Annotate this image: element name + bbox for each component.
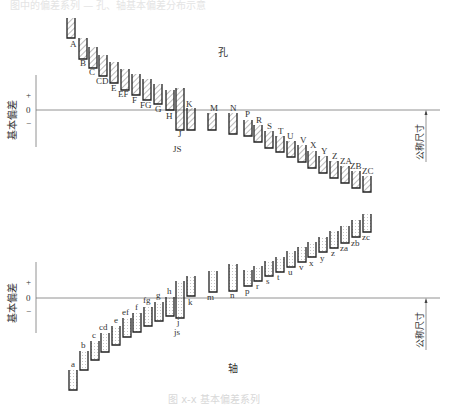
- hole-bars: ABCCDEEFFFGGHJKMNPRSTUVXYZZAZBZCJS: [67, 18, 374, 192]
- bar-label: A: [70, 39, 77, 49]
- bar-label: F: [132, 95, 137, 105]
- hole-zero-label: 0: [26, 105, 31, 115]
- deviation-bar: FG: [140, 79, 152, 110]
- deviation-bar: t: [276, 257, 284, 282]
- deviation-bar: ef: [122, 307, 131, 337]
- bar-label: p: [245, 286, 250, 296]
- deviation-bar: J: [176, 88, 184, 139]
- deviation-bar: Y: [319, 146, 328, 173]
- hole-minus-label: −: [26, 118, 31, 128]
- deviation-bar: j: [176, 281, 184, 327]
- bar-label: r: [256, 281, 259, 291]
- deviation-bar: k: [187, 276, 195, 307]
- bar-label: j: [176, 317, 180, 327]
- bar-label: EF: [118, 89, 129, 99]
- deviation-bar: T: [276, 126, 284, 152]
- hole-size-label: 公称尺寸: [414, 124, 425, 160]
- deviation-bar: g: [155, 290, 163, 321]
- hole-title: 孔: [218, 47, 228, 58]
- deviation-bar: n: [229, 264, 237, 300]
- bar-label: h: [167, 286, 172, 296]
- bar-label: m: [207, 292, 214, 302]
- deviation-bar: c: [91, 330, 99, 360]
- bar-label: U: [287, 131, 294, 141]
- bar-label: e: [114, 315, 118, 325]
- bar-label: u: [288, 267, 293, 277]
- deviation-bar: cd: [99, 322, 109, 352]
- bar-label: G: [155, 104, 162, 114]
- bar-label: b: [81, 340, 86, 350]
- deviation-bar: x: [308, 242, 316, 268]
- bar-label: C: [89, 67, 95, 77]
- deviation-bar: m: [207, 271, 217, 302]
- bar-label: n: [230, 290, 235, 300]
- bar-label: J: [178, 129, 182, 139]
- deviation-bar: P: [244, 109, 252, 136]
- deviation-bar: V: [298, 135, 307, 162]
- bar-label: f: [135, 302, 138, 312]
- bar-label: B: [80, 58, 86, 68]
- deviation-bar: ZC: [362, 166, 374, 192]
- shaft-axes: [36, 262, 440, 350]
- deviation-bar: p: [244, 270, 252, 296]
- js-label: js: [173, 327, 181, 337]
- shaft-zero-label: 0: [26, 293, 31, 303]
- deviation-bar: F: [132, 74, 140, 105]
- js-label: JS: [173, 144, 182, 154]
- hole-axis-label: 基本偏差: [6, 100, 18, 140]
- deviation-bar: s: [265, 261, 273, 286]
- bar-label: Y: [321, 146, 328, 156]
- bar-label: X: [310, 140, 317, 150]
- deviation-bar: M: [208, 103, 218, 130]
- deviation-bar: EF: [118, 69, 129, 99]
- bar-label: ef: [122, 307, 129, 317]
- bar-label: x: [309, 258, 314, 268]
- bar-label: t: [277, 272, 280, 282]
- bar-label: y: [320, 253, 325, 263]
- bar-label: K: [186, 99, 193, 109]
- bar-label: T: [278, 126, 284, 136]
- shaft-plus-label: +: [26, 277, 31, 287]
- deviation-bar: Z: [330, 151, 338, 178]
- bar-label: g: [156, 290, 161, 300]
- deviation-bar: h: [166, 286, 174, 316]
- hole-axes: [36, 75, 440, 162]
- deviation-bar: H: [166, 90, 174, 121]
- bar-label: H: [166, 111, 173, 121]
- bar-label: za: [340, 243, 348, 253]
- bar-label: FG: [140, 100, 152, 110]
- deviation-bar: a: [69, 359, 77, 390]
- deviation-bar: v: [298, 247, 306, 272]
- bar-label: z: [331, 248, 335, 258]
- deviation-bar: U: [287, 131, 295, 157]
- shaft-axis-label: 基本偏差: [6, 283, 18, 323]
- deviation-bar: zc: [362, 214, 371, 242]
- bar-label: a: [71, 359, 75, 369]
- deviation-bar: R: [254, 115, 262, 142]
- deviation-bar: zb: [351, 220, 360, 248]
- bar-label: CD: [96, 76, 109, 86]
- deviation-bar: X: [308, 140, 317, 168]
- deviation-bar: fg: [143, 295, 152, 326]
- deviation-bar: za: [340, 226, 349, 253]
- bar-label: c: [92, 330, 96, 340]
- deviation-bar: S: [265, 121, 273, 148]
- bar-label: v: [299, 262, 304, 272]
- shaft-title: 轴: [228, 362, 238, 374]
- bar-label: S: [267, 121, 272, 131]
- bar-label: Z: [332, 151, 338, 161]
- shaft-bars: abccdeefffgghjkmnprstuvxyzzazbzcjs: [69, 214, 371, 390]
- bar-label: V: [300, 135, 307, 145]
- bar-label: P: [245, 109, 250, 119]
- deviation-bar: G: [154, 84, 162, 114]
- deviation-bar: ZB: [350, 161, 362, 188]
- deviation-bar: E: [110, 62, 118, 93]
- deviation-bar: N: [229, 103, 237, 134]
- deviation-bar: K: [186, 99, 195, 130]
- bar-label: zb: [351, 238, 360, 248]
- deviation-bar: r: [254, 266, 262, 291]
- shaft-size-label: 公称尺寸: [414, 312, 425, 348]
- bar-label: k: [188, 297, 193, 307]
- bar-label: M: [210, 103, 218, 113]
- bar-label: R: [256, 115, 262, 125]
